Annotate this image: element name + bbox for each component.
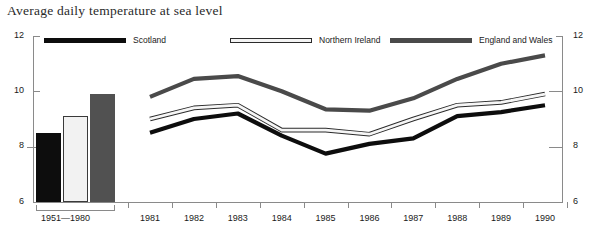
line-scotland[interactable] — [150, 105, 545, 153]
line-series-layer — [0, 0, 596, 235]
chart-container: Average daily temperature at sea level S… — [0, 0, 596, 235]
